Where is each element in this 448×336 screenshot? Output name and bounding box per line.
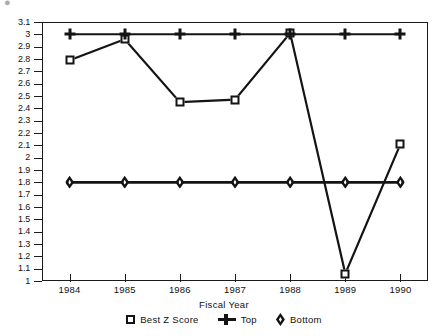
data-point-marker-diamond xyxy=(341,176,350,189)
data-point-marker-plus xyxy=(340,29,351,40)
data-point-marker-plus xyxy=(119,29,130,40)
data-point-marker-square xyxy=(341,269,350,278)
legend-item-top[interactable]: Top xyxy=(218,314,257,325)
plot-area xyxy=(42,22,428,281)
x-tick-label: 1988 xyxy=(279,285,301,295)
data-point-marker-plus xyxy=(174,29,185,40)
legend-item-best-z-score[interactable]: Best Z Score xyxy=(126,314,199,325)
data-point-marker-plus xyxy=(395,29,406,40)
x-tick-label: 1987 xyxy=(224,285,246,295)
legend-item-bottom[interactable]: Bottom xyxy=(276,313,322,326)
legend-label: Best Z Score xyxy=(140,314,199,325)
data-point-marker-diamond xyxy=(120,176,129,189)
chart-root: ● 11.11.21.31.41.51.61.71.81.922.12.22.3… xyxy=(0,0,448,336)
data-point-marker-square xyxy=(175,98,184,107)
series-lines xyxy=(42,22,428,281)
plus-marker-icon xyxy=(218,314,236,325)
x-tick-label: 1986 xyxy=(169,285,191,295)
legend-label: Bottom xyxy=(290,314,322,325)
x-tick-label: 1989 xyxy=(334,285,356,295)
data-point-marker-plus xyxy=(230,29,241,40)
data-point-marker-square xyxy=(231,95,240,104)
x-tick-label: 1990 xyxy=(389,285,411,295)
data-point-marker-plus xyxy=(285,29,296,40)
x-tick-label: 1985 xyxy=(114,285,136,295)
square-marker-icon xyxy=(126,315,135,324)
series-line-best-z-score xyxy=(70,33,401,274)
data-point-marker-square xyxy=(65,56,74,65)
legend-label: Top xyxy=(241,314,257,325)
x-tick-label: 1984 xyxy=(59,285,81,295)
data-point-marker-plus xyxy=(64,29,75,40)
data-point-marker-diamond xyxy=(231,176,240,189)
diamond-marker-icon xyxy=(276,313,285,326)
data-point-marker-square xyxy=(396,140,405,149)
data-point-marker-diamond xyxy=(396,176,405,189)
data-point-marker-diamond xyxy=(65,176,74,189)
data-point-marker-diamond xyxy=(286,176,295,189)
data-point-marker-diamond xyxy=(175,176,184,189)
x-axis-title: Fiscal Year xyxy=(0,299,448,310)
chart-legend: Best Z ScoreTopBottom xyxy=(0,313,448,326)
